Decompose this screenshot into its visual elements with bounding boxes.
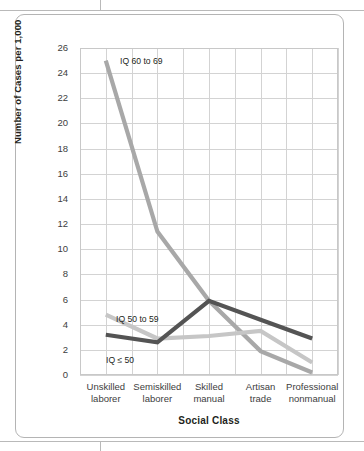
series-label-iq-50-59: IQ 50 to 59 xyxy=(116,314,159,324)
page-rule-top xyxy=(0,10,364,11)
y-axis-title: Number of Cases per 1,000 xyxy=(12,20,23,144)
y-tick-label-10: 10 xyxy=(42,243,68,254)
y-tick-label-8: 8 xyxy=(42,268,68,279)
y-tick-label-22: 22 xyxy=(42,92,68,103)
y-tick-label-24: 24 xyxy=(42,67,68,78)
y-tick-label-4: 4 xyxy=(42,319,68,330)
page-rule-bottom-tick xyxy=(100,441,101,451)
y-tick-label-20: 20 xyxy=(42,117,68,128)
y-tick-label-26: 26 xyxy=(42,42,68,53)
series-label-iq-60-69: IQ 60 to 69 xyxy=(120,56,163,66)
gridline-x-10 xyxy=(338,48,339,375)
page-rule-bottom xyxy=(0,441,364,442)
plot-area xyxy=(80,48,338,375)
y-tick-label-18: 18 xyxy=(42,143,68,154)
y-tick-label-6: 6 xyxy=(42,294,68,305)
series-lines xyxy=(80,48,338,375)
y-tick-label-12: 12 xyxy=(42,218,68,229)
y-tick-label-2: 2 xyxy=(42,344,68,355)
y-tick-label-14: 14 xyxy=(42,193,68,204)
x-axis-title: Social Class xyxy=(80,415,338,426)
figure-container: Number of Cases per 1,000 02468101214161… xyxy=(15,14,344,438)
series-label-iq-under-50: IQ ≤ 50 xyxy=(106,355,134,365)
gridline-y-0 xyxy=(80,375,338,376)
y-tick-label-0: 0 xyxy=(42,369,68,380)
x-category-4: Professionalnonmanual xyxy=(280,381,344,404)
page-rule-top-tick xyxy=(100,0,101,11)
y-tick-label-16: 16 xyxy=(42,168,68,179)
